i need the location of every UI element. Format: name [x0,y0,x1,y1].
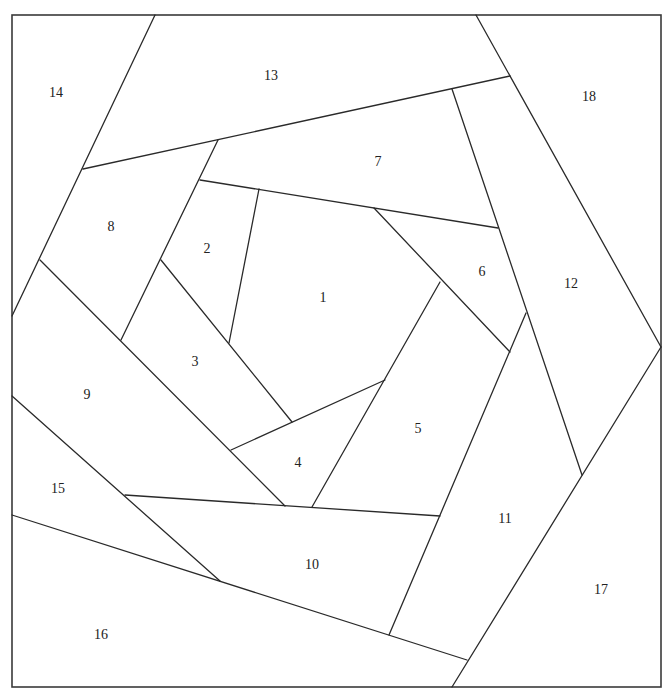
piece-label-13: 13 [264,68,278,83]
piece-label-15: 15 [51,481,65,496]
piece-label-7: 7 [375,154,382,169]
piece-label-6: 6 [479,264,486,279]
piece-label-4: 4 [295,455,302,470]
piece-label-3: 3 [192,354,199,369]
piece-label-12: 12 [564,276,578,291]
piece-label-2: 2 [204,241,211,256]
piece-label-16: 16 [94,627,108,642]
piece-label-5: 5 [415,421,422,436]
piece-label-1: 1 [320,290,327,305]
piece-label-10: 10 [305,557,319,572]
piece-label-9: 9 [84,387,91,402]
piece-label-11: 11 [498,511,511,526]
piece-label-18: 18 [582,89,596,104]
piece-label-8: 8 [108,219,115,234]
block-frame [12,15,661,687]
piece-label-17: 17 [594,582,608,597]
quilt-block-diagram: 1 2 3 4 5 6 7 8 9 10 11 12 13 14 15 16 1… [0,0,670,696]
piece-label-14: 14 [49,85,63,100]
